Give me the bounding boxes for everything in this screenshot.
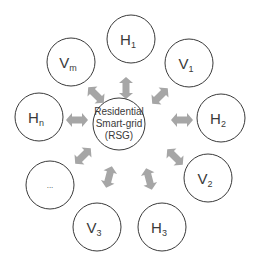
- arrow-h3: [139, 167, 158, 192]
- arrow-v3: [99, 165, 118, 190]
- node-h1: H1: [107, 15, 155, 63]
- arrow-v1: [147, 83, 172, 108]
- node-h2-sub: 2: [221, 119, 226, 129]
- arrow-hn: [66, 113, 88, 127]
- svg-text:...: ...: [47, 181, 54, 190]
- arrow-ellipsis: [70, 143, 95, 168]
- node-vm: Vm: [47, 38, 95, 86]
- arrow-v2: [162, 144, 187, 169]
- node-hn-sub: n: [39, 118, 44, 128]
- node-ellipsis-base: ...: [47, 181, 54, 190]
- node-h3: H3: [138, 203, 186, 251]
- node-v1-sub: 1: [189, 64, 194, 74]
- node-v1: V1: [165, 39, 213, 87]
- rsg-diagram: Residential Smart-grid (RSG) H1 V1 H2 V2…: [0, 0, 257, 259]
- node-h3-sub: 3: [162, 228, 167, 238]
- node-h1-base: H: [120, 31, 131, 48]
- node-v3-sub: 3: [97, 228, 102, 238]
- node-v1-base: V: [178, 55, 188, 72]
- node-v2: V2: [184, 154, 232, 202]
- node-vm-base: V: [59, 54, 69, 71]
- node-hn-base: H: [28, 109, 39, 126]
- node-v3: V3: [73, 203, 121, 251]
- node-v2-sub: 2: [208, 179, 213, 189]
- node-hn: Hn: [15, 93, 63, 141]
- node-h3-base: H: [151, 219, 162, 236]
- node-vm-sub: m: [69, 63, 77, 73]
- node-v3-base: V: [86, 219, 96, 236]
- hub-line-2: Smart-grid: [96, 118, 143, 129]
- node-h2-base: H: [210, 110, 221, 127]
- hub-rsg: Residential Smart-grid (RSG): [93, 98, 145, 150]
- arrow-h1: [119, 77, 133, 99]
- node-h1-sub: 1: [131, 40, 136, 50]
- hub-line-1: Residential: [94, 106, 143, 117]
- hub-line-3: (RSG): [105, 130, 133, 141]
- arrow-h2: [171, 113, 193, 127]
- node-ellipsis: ...: [26, 161, 74, 209]
- node-h2: H2: [197, 94, 245, 142]
- node-v2-base: V: [197, 170, 207, 187]
